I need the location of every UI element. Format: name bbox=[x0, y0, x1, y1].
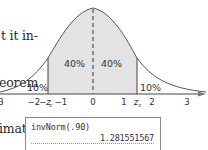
tick-label-neg3: 3 bbox=[0, 97, 4, 107]
tick-label-1: 1 bbox=[121, 97, 126, 107]
label-10-left: 10% bbox=[27, 82, 48, 93]
tick-label-neg1: −1 bbox=[55, 97, 68, 107]
normal-curve-figure: 40% 40% 10% 10% 3 −2 −z c −1 0 1 z c 2 3 bbox=[0, 0, 208, 115]
calculator-divider bbox=[31, 143, 154, 144]
label-10-right: 10% bbox=[140, 82, 161, 93]
calculator-expression: invNorm(.90) bbox=[31, 122, 90, 132]
tick-label-3: 3 bbox=[184, 97, 189, 107]
label-40-right: 40% bbox=[101, 58, 122, 69]
tick-label-neg-z-sub: c bbox=[49, 102, 52, 108]
calculator-screen: invNorm(.90) 1.281551567 bbox=[25, 117, 161, 150]
tick-label-z-sub: c bbox=[138, 102, 141, 108]
calculator-result: 1.281551567 bbox=[100, 133, 154, 143]
tick-label-2: 2 bbox=[149, 97, 154, 107]
tick-label-0: 0 bbox=[90, 97, 95, 107]
label-40-left: 40% bbox=[64, 58, 85, 69]
